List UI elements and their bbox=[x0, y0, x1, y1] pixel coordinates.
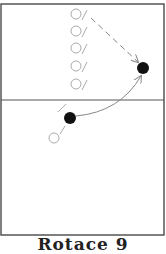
slash-mark bbox=[82, 27, 87, 37]
slash-mark bbox=[82, 62, 87, 72]
slash-mark bbox=[82, 10, 87, 20]
hollow-player-icon bbox=[49, 133, 59, 143]
hollow-player-icon bbox=[71, 43, 81, 53]
diagram-caption: Rotace 9 bbox=[0, 234, 166, 254]
waiting-players bbox=[71, 9, 87, 90]
slash-mark bbox=[58, 104, 66, 112]
slash-mark bbox=[60, 126, 65, 134]
hollow-player-icon bbox=[71, 61, 81, 71]
hollow-player-icon bbox=[71, 26, 81, 36]
filled-player-icon bbox=[137, 62, 149, 74]
dashed-arrow bbox=[91, 18, 138, 62]
court-frame bbox=[1, 4, 164, 235]
slash-mark bbox=[82, 44, 87, 54]
hollow-player-icon bbox=[71, 79, 81, 89]
slash-mark bbox=[82, 80, 87, 90]
filled-player-icon bbox=[64, 112, 76, 124]
hollow-player-icon bbox=[71, 9, 81, 19]
